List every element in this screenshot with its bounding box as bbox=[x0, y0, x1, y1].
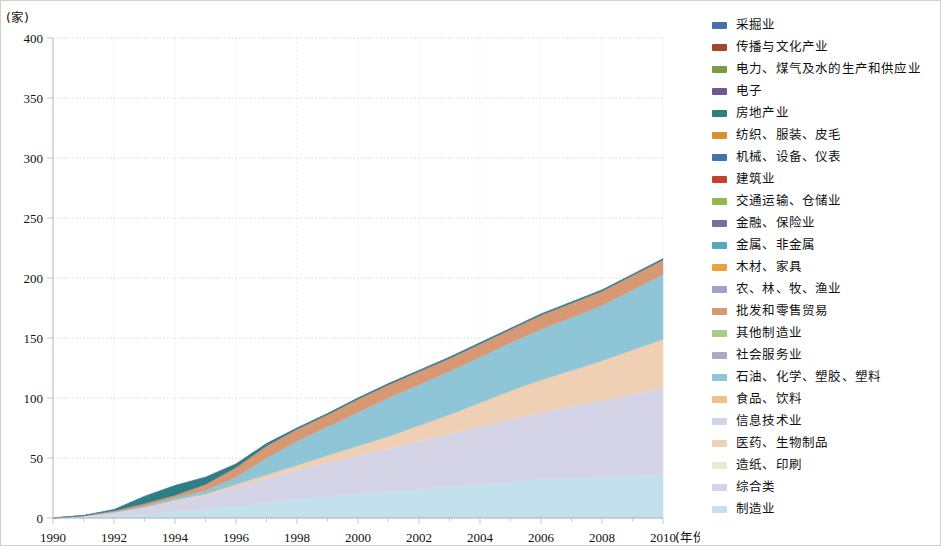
legend-item[interactable]: 纺织、服装、皮毛 bbox=[712, 124, 941, 146]
legend-item-label: 石油、化学、塑胶、塑料 bbox=[736, 371, 881, 384]
legend-item-label: 交通运输、仓储业 bbox=[736, 195, 842, 208]
legend-item[interactable]: 电子 bbox=[712, 80, 941, 102]
legend-item-label: 木材、家具 bbox=[736, 261, 802, 274]
legend-item-label: 机械、设备、仪表 bbox=[736, 151, 842, 164]
legend-item-label: 社会服务业 bbox=[736, 349, 802, 362]
legend-item[interactable]: 造纸、印刷 bbox=[712, 454, 941, 476]
y-tick-label: 150 bbox=[24, 331, 44, 346]
legend-swatch-icon bbox=[712, 396, 727, 403]
legend-item[interactable]: 综合类 bbox=[712, 476, 941, 498]
legend-item-label: 综合类 bbox=[736, 481, 776, 494]
legend-item-label: 金属、非金属 bbox=[736, 239, 815, 252]
x-tick-label: 1994 bbox=[162, 530, 189, 545]
legend-item-label: 电力、煤气及水的生产和供应业 bbox=[736, 63, 921, 76]
legend-swatch-icon bbox=[712, 44, 727, 51]
legend-item-label: 食品、饮料 bbox=[736, 393, 802, 406]
y-tick-label: 0 bbox=[37, 511, 44, 526]
legend-item[interactable]: 房地产业 bbox=[712, 102, 941, 124]
y-tick-label: 300 bbox=[24, 151, 44, 166]
legend-item-label: 采掘业 bbox=[736, 19, 776, 32]
y-tick-label: 400 bbox=[24, 31, 44, 46]
x-axis-unit-label: (年份) bbox=[675, 530, 700, 545]
legend-item-label: 制造业 bbox=[736, 503, 776, 516]
legend-item-label: 农、林、牧、渔业 bbox=[736, 283, 842, 296]
legend-swatch-icon bbox=[712, 418, 727, 425]
legend-item[interactable]: 信息技术业 bbox=[712, 410, 941, 432]
legend-item[interactable]: 金融、保险业 bbox=[712, 212, 941, 234]
legend-item-label: 房地产业 bbox=[736, 107, 789, 120]
x-tick-label: 2010 bbox=[650, 530, 676, 545]
x-tick-label: 1996 bbox=[223, 530, 250, 545]
legend-swatch-icon bbox=[712, 440, 727, 447]
legend-swatch-icon bbox=[712, 506, 727, 513]
legend-swatch-icon bbox=[712, 242, 727, 249]
x-tick-label: 2004 bbox=[467, 530, 494, 545]
legend-item-label: 信息技术业 bbox=[736, 415, 802, 428]
legend-item[interactable]: 批发和零售贸易 bbox=[712, 300, 941, 322]
legend-item-label: 其他制造业 bbox=[736, 327, 802, 340]
y-tick-label: 200 bbox=[24, 271, 44, 286]
legend-item[interactable]: 电力、煤气及水的生产和供应业 bbox=[712, 58, 941, 80]
x-tick-label: 1998 bbox=[284, 530, 310, 545]
legend-item[interactable]: 社会服务业 bbox=[712, 344, 941, 366]
legend-swatch-icon bbox=[712, 330, 727, 337]
legend-item[interactable]: 石油、化学、塑胶、塑料 bbox=[712, 366, 941, 388]
chart-legend: 采掘业传播与文化产业电力、煤气及水的生产和供应业电子房地产业纺织、服装、皮毛机械… bbox=[712, 14, 941, 520]
legend-swatch-icon bbox=[712, 374, 727, 381]
legend-item[interactable]: 采掘业 bbox=[712, 14, 941, 36]
legend-item-label: 造纸、印刷 bbox=[736, 459, 802, 472]
legend-swatch-icon bbox=[712, 154, 727, 161]
y-tick-label: 50 bbox=[30, 451, 43, 466]
x-tick-label: 1992 bbox=[101, 530, 127, 545]
legend-item[interactable]: 其他制造业 bbox=[712, 322, 941, 344]
x-tick-label: 2000 bbox=[345, 530, 371, 545]
legend-item[interactable]: 机械、设备、仪表 bbox=[712, 146, 941, 168]
legend-swatch-icon bbox=[712, 198, 727, 205]
legend-item-label: 纺织、服装、皮毛 bbox=[736, 129, 842, 142]
x-tick-label: 2002 bbox=[406, 530, 432, 545]
y-tick-label: 100 bbox=[24, 391, 44, 406]
legend-item[interactable]: 农、林、牧、渔业 bbox=[712, 278, 941, 300]
y-axis-unit-label: (家) bbox=[6, 10, 29, 25]
y-tick-label: 250 bbox=[24, 211, 44, 226]
chart-canvas: 0501001502002503003504001990199219941996… bbox=[0, 0, 700, 546]
legend-item[interactable]: 建筑业 bbox=[712, 168, 941, 190]
legend-swatch-icon bbox=[712, 264, 727, 271]
legend-item-label: 金融、保险业 bbox=[736, 217, 815, 230]
legend-swatch-icon bbox=[712, 132, 727, 139]
legend-item[interactable]: 医药、生物制品 bbox=[712, 432, 941, 454]
legend-item-label: 建筑业 bbox=[736, 173, 776, 186]
legend-item-label: 批发和零售贸易 bbox=[736, 305, 828, 318]
legend-item[interactable]: 传播与文化产业 bbox=[712, 36, 941, 58]
legend-swatch-icon bbox=[712, 308, 727, 315]
legend-swatch-icon bbox=[712, 22, 727, 29]
legend-swatch-icon bbox=[712, 110, 727, 117]
legend-swatch-icon bbox=[712, 220, 727, 227]
y-tick-label: 350 bbox=[24, 91, 44, 106]
legend-swatch-icon bbox=[712, 484, 727, 491]
legend-item[interactable]: 金属、非金属 bbox=[712, 234, 941, 256]
legend-swatch-icon bbox=[712, 176, 727, 183]
legend-item-label: 医药、生物制品 bbox=[736, 437, 828, 450]
legend-swatch-icon bbox=[712, 66, 727, 73]
legend-item[interactable]: 制造业 bbox=[712, 498, 941, 520]
legend-swatch-icon bbox=[712, 462, 727, 469]
legend-swatch-icon bbox=[712, 88, 727, 95]
legend-item[interactable]: 食品、饮料 bbox=[712, 388, 941, 410]
legend-swatch-icon bbox=[712, 286, 727, 293]
legend-item-label: 传播与文化产业 bbox=[736, 41, 828, 54]
legend-item[interactable]: 木材、家具 bbox=[712, 256, 941, 278]
x-tick-label: 2008 bbox=[589, 530, 615, 545]
legend-item[interactable]: 交通运输、仓储业 bbox=[712, 190, 941, 212]
stacked-area-chart: 0501001502002503003504001990199219941996… bbox=[0, 0, 700, 546]
legend-item-label: 电子 bbox=[736, 85, 762, 98]
legend-swatch-icon bbox=[712, 352, 727, 359]
x-tick-label: 2006 bbox=[528, 530, 555, 545]
x-tick-label: 1990 bbox=[40, 530, 66, 545]
